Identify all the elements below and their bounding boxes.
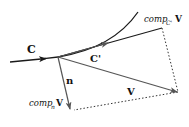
projection-dotted-normal	[74, 92, 178, 110]
svg-text:V: V	[55, 98, 64, 108]
svg-text:V: V	[174, 14, 183, 24]
vector-components-diagram: C C' n V comp C' V comp n V	[0, 0, 189, 127]
projection-dotted-tangent	[162, 28, 178, 92]
curve-c-incoming-tail	[44, 57, 58, 59]
label-comp-c-v: comp C' V	[144, 14, 183, 26]
svg-text:comp: comp	[29, 98, 53, 108]
label-c-prime: C'	[90, 53, 101, 64]
curve-c-incoming	[10, 59, 46, 63]
label-comp-n-v: comp n V	[29, 98, 64, 110]
svg-text:comp: comp	[144, 14, 168, 24]
curve-c	[58, 12, 138, 57]
vector-v-arrow	[58, 57, 177, 92]
label-curve-c: C	[27, 43, 36, 56]
svg-text:C': C'	[166, 19, 173, 26]
svg-text:n: n	[51, 103, 55, 110]
label-vector-v: V	[126, 86, 135, 97]
label-normal-n: n	[66, 75, 74, 86]
